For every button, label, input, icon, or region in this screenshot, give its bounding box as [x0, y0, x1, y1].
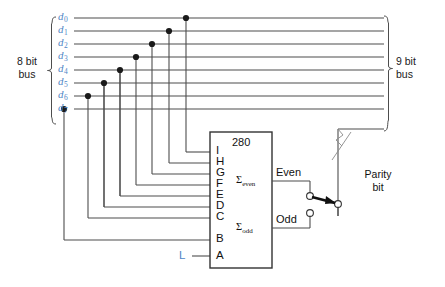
- data-label-d7: d7: [58, 102, 67, 113]
- signal-label-odd: Odd: [276, 214, 297, 225]
- junction-d3: [133, 54, 139, 60]
- switch-contact-odd: [307, 210, 314, 217]
- left-bus-brace: [48, 17, 57, 124]
- data-label-d0: d0: [58, 11, 67, 22]
- signal-label-even: Even: [276, 167, 301, 178]
- output-sigma-odd-label: Σodd: [236, 222, 253, 235]
- control-input-label-L: L: [179, 250, 185, 262]
- data-label-d5: d5: [58, 76, 67, 87]
- chip-pin-A: A: [216, 250, 224, 262]
- junction-d6: [85, 93, 91, 99]
- right-bus-label-line1: 9 bit: [396, 56, 438, 67]
- data-label-d3: d3: [58, 50, 67, 61]
- switch-common-terminal: [335, 201, 342, 208]
- junction-d5: [101, 80, 107, 86]
- parity-leader-zigzag: [336, 129, 343, 146]
- parity-bit-label-line2: bit: [352, 181, 404, 193]
- right-bus-brace: [384, 16, 393, 131]
- junction-dots: [61, 15, 189, 112]
- output-sigma-even-label: Σeven: [236, 175, 255, 188]
- data-label-d6: d6: [58, 89, 67, 100]
- chip-part-number: 280: [232, 137, 250, 148]
- parity-bit-label-line1: Parity: [352, 168, 404, 180]
- parity-mode-switch: [307, 193, 342, 217]
- left-bus-label-line2: bus: [6, 69, 48, 80]
- data-label-d4: d4: [58, 63, 67, 74]
- junction-d0: [183, 15, 189, 21]
- chip-pin-C: C: [216, 211, 224, 223]
- switch-wiper-arm: [312, 196, 336, 204]
- chip-pin-B: B: [216, 233, 224, 245]
- left-bus-label-line1: 8 bit: [6, 56, 48, 67]
- junction-d2: [149, 41, 155, 47]
- data-label-d1: d1: [58, 24, 67, 35]
- junction-d4: [117, 67, 123, 73]
- right-bus-label-line2: bus: [396, 69, 438, 80]
- junction-d1: [166, 28, 172, 34]
- data-label-d2: d2: [58, 37, 67, 48]
- parity-generator-diagram: 8 bit bus 9 bit bus d0 d1 d2 d3 d4 d5 d6…: [0, 0, 445, 287]
